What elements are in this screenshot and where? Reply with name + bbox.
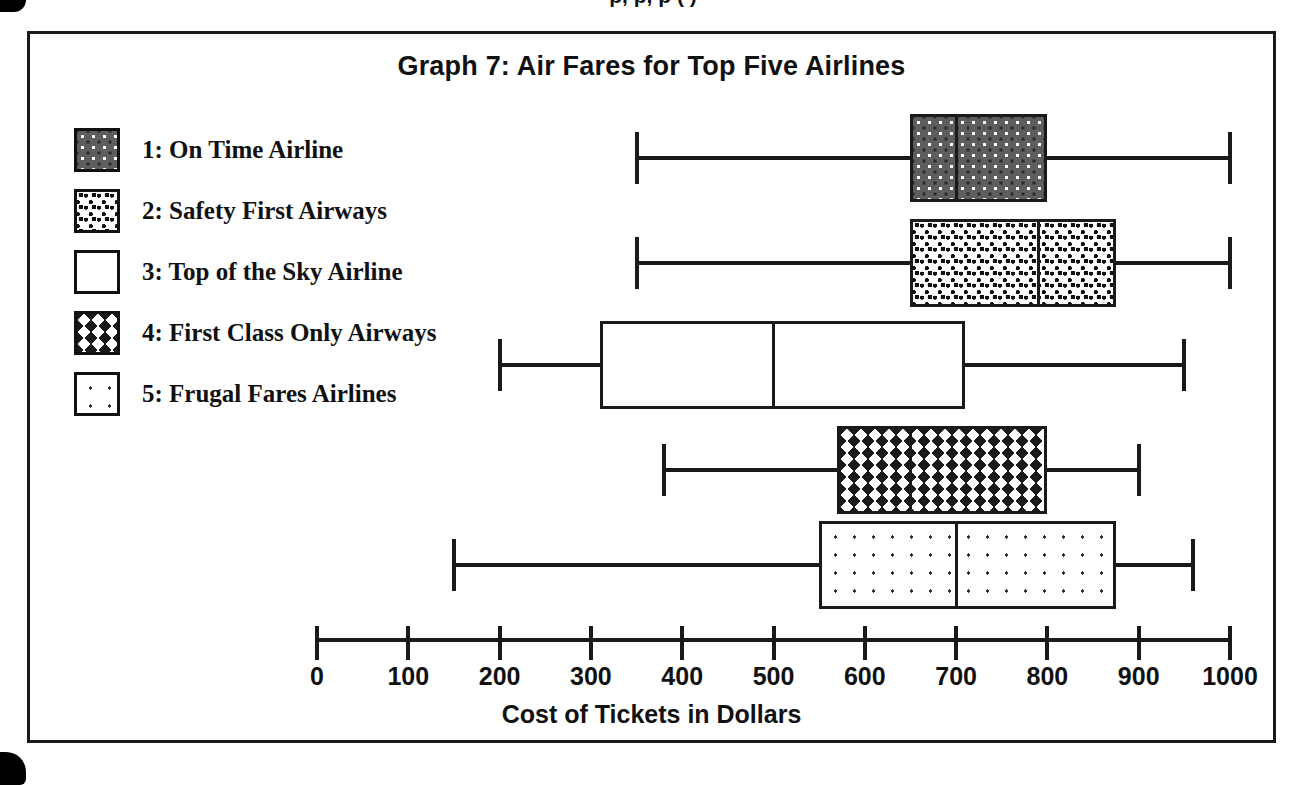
axis-tick-label-500: 500 bbox=[753, 662, 795, 691]
axis-tick-0 bbox=[315, 626, 319, 660]
axis-tick-label-900: 900 bbox=[1118, 662, 1160, 691]
axis-tick-label-700: 700 bbox=[935, 662, 977, 691]
x-axis: Cost of Tickets in Dollars 0100200300400… bbox=[30, 34, 1273, 740]
axis-tick-label-0: 0 bbox=[310, 662, 324, 691]
axis-tick-label-100: 100 bbox=[387, 662, 429, 691]
axis-tick-700 bbox=[954, 626, 958, 660]
axis-tick-900 bbox=[1137, 626, 1141, 660]
axis-tick-300 bbox=[589, 626, 593, 660]
axis-tick-100 bbox=[406, 626, 410, 660]
axis-tick-label-200: 200 bbox=[479, 662, 521, 691]
chart-frame: Graph 7: Air Fares for Top Five Airlines… bbox=[27, 31, 1276, 743]
axis-tick-600 bbox=[863, 626, 867, 660]
axis-tick-800 bbox=[1045, 626, 1049, 660]
axis-tick-label-400: 400 bbox=[661, 662, 703, 691]
axis-tick-label-800: 800 bbox=[1027, 662, 1069, 691]
axis-tick-500 bbox=[772, 626, 776, 660]
clipped-caption-text: p, p, p ( ) bbox=[0, 0, 1306, 8]
axis-tick-label-1000: 1000 bbox=[1202, 662, 1258, 691]
axis-tick-200 bbox=[498, 626, 502, 660]
axis-tick-400 bbox=[680, 626, 684, 660]
axis-tick-1000 bbox=[1228, 626, 1232, 660]
clipped-caption-above-chart: p, p, p ( ) bbox=[0, 0, 1306, 14]
page-corner-mark-bottom bbox=[0, 752, 26, 785]
axis-tick-label-300: 300 bbox=[570, 662, 612, 691]
axis-tick-label-600: 600 bbox=[844, 662, 886, 691]
x-axis-title: Cost of Tickets in Dollars bbox=[30, 700, 1273, 729]
